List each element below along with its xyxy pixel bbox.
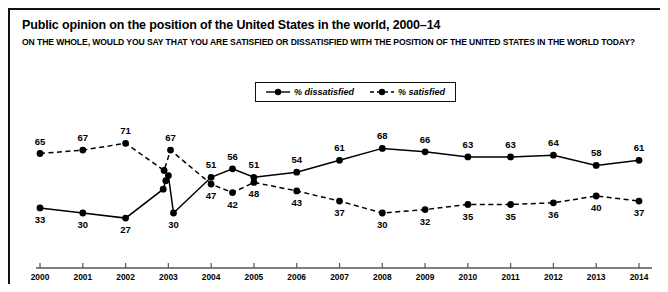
data-point[interactable] <box>507 154 514 161</box>
x-axis-tick-label: 2013 <box>587 272 606 282</box>
data-point-label: 36 <box>548 209 559 220</box>
chart-figure: Public opinion on the position of the Un… <box>8 8 660 284</box>
data-point[interactable] <box>229 189 236 196</box>
data-point-label: 35 <box>463 211 474 222</box>
x-axis-tick-label: 2014 <box>630 272 649 282</box>
x-axis-tick-label: 2006 <box>287 272 306 282</box>
data-point-label: 67 <box>78 132 89 143</box>
data-point[interactable] <box>167 147 174 154</box>
data-point[interactable] <box>229 165 236 172</box>
x-axis-tick-label: 2002 <box>116 272 135 282</box>
data-point-label: 51 <box>249 159 260 170</box>
data-point-label: 43 <box>291 197 302 208</box>
data-point-label: 40 <box>591 202 602 213</box>
data-point-label: 61 <box>634 142 645 153</box>
data-point-label: 33 <box>35 214 46 225</box>
data-point-label: 42 <box>227 199 238 210</box>
data-point[interactable] <box>507 201 514 208</box>
data-point[interactable] <box>379 145 386 152</box>
data-point-label: 27 <box>120 224 131 235</box>
legend-line-solid-icon <box>266 87 290 97</box>
data-point-label: 63 <box>505 139 516 150</box>
data-point-label: 63 <box>463 139 474 150</box>
data-point[interactable] <box>122 215 129 222</box>
legend-label-satisfied: % satisfied <box>398 87 445 97</box>
data-point-label: 30 <box>168 219 179 230</box>
data-point-label: 47 <box>206 190 217 201</box>
data-point[interactable] <box>161 167 168 174</box>
x-axis-tick-label: 2008 <box>373 272 392 282</box>
data-point[interactable] <box>251 179 258 186</box>
data-point[interactable] <box>79 210 86 217</box>
data-point[interactable] <box>336 198 343 205</box>
data-point[interactable] <box>79 147 86 154</box>
data-point[interactable] <box>160 186 167 193</box>
data-point-label: 37 <box>634 207 645 218</box>
data-point-label: 54 <box>291 154 302 165</box>
data-point[interactable] <box>37 150 44 157</box>
data-point[interactable] <box>293 188 300 195</box>
legend-label-dissatisfied: % dissatisfied <box>294 87 354 97</box>
x-axis-tick-label: 2000 <box>31 272 50 282</box>
data-point[interactable] <box>550 199 557 206</box>
data-point[interactable] <box>293 169 300 176</box>
data-point-label: 37 <box>334 207 345 218</box>
data-point-label: 30 <box>78 219 89 230</box>
legend-entry-satisfied[interactable]: % satisfied <box>370 87 445 97</box>
data-point[interactable] <box>170 210 177 217</box>
x-axis-tick-label: 2004 <box>202 272 221 282</box>
data-point-label: 66 <box>420 134 431 145</box>
x-axis-tick-label: 2010 <box>459 272 478 282</box>
x-axis-tick-label: 2012 <box>544 272 563 282</box>
data-point-label: 68 <box>377 130 388 141</box>
x-axis-tick-label: 2007 <box>330 272 349 282</box>
x-axis-tick-label: 2005 <box>245 272 264 282</box>
data-point-label: 67 <box>165 132 176 143</box>
x-axis-tick-label: 2011 <box>502 272 520 282</box>
legend-line-dashed-icon <box>370 87 394 97</box>
data-point-label: 65 <box>35 136 46 147</box>
data-point[interactable] <box>208 181 215 188</box>
data-point[interactable] <box>593 162 600 169</box>
data-point[interactable] <box>422 148 429 155</box>
data-point[interactable] <box>422 206 429 213</box>
data-point-label: 58 <box>591 147 602 158</box>
data-point[interactable] <box>122 140 129 147</box>
x-axis-tick-label: 2001 <box>73 272 92 282</box>
data-point[interactable] <box>379 210 386 217</box>
data-point-label: 56 <box>227 151 238 162</box>
data-point-label: 32 <box>420 216 431 227</box>
x-axis-tick-label: 2003 <box>159 272 178 282</box>
legend-entry-dissatisfied[interactable]: % dissatisfied <box>266 87 354 97</box>
x-axis-tick-label: 2009 <box>416 272 435 282</box>
data-point[interactable] <box>636 157 643 164</box>
data-point-label: 48 <box>249 188 260 199</box>
data-point[interactable] <box>465 201 472 208</box>
data-point-label: 61 <box>334 142 345 153</box>
data-point-label: 35 <box>505 211 516 222</box>
data-point-label: 30 <box>377 219 388 230</box>
chart-legend: % dissatisfied % satisfied <box>255 82 456 102</box>
data-point[interactable] <box>636 198 643 205</box>
data-point[interactable] <box>336 157 343 164</box>
data-point-label: 71 <box>120 125 131 136</box>
data-point[interactable] <box>550 152 557 159</box>
data-point-label: 51 <box>206 159 217 170</box>
data-point-label: 64 <box>548 137 559 148</box>
data-point[interactable] <box>37 205 44 212</box>
data-point[interactable] <box>465 154 472 161</box>
data-point[interactable] <box>208 174 215 181</box>
data-point[interactable] <box>593 193 600 200</box>
